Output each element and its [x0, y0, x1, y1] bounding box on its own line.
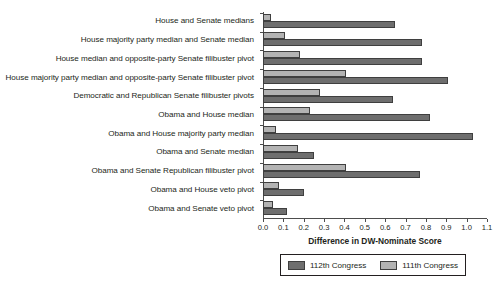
x-axis-tick [365, 219, 366, 222]
x-axis-title: Difference in DW-Nominate Score [263, 236, 487, 246]
legend-label-112th: 112th Congress [310, 261, 367, 270]
x-axis-tick-label: 1.1 [474, 223, 493, 233]
category-label: Obama and House veto pivot [150, 184, 254, 196]
category-label: House median and opposite-party Senate f… [56, 53, 254, 65]
x-axis-tick [344, 219, 345, 222]
chart-legend: 112th Congress 111th Congress [280, 254, 466, 276]
category-label: Obama and Senate Republican filibuster p… [92, 165, 254, 177]
legend-entry-112th[interactable]: 112th Congress [288, 261, 367, 270]
category-label: Obama and Senate median [156, 146, 254, 158]
x-axis-tick [487, 219, 488, 222]
bar-112th-congress [263, 133, 473, 140]
x-axis-tick [324, 219, 325, 222]
x-axis-tick [385, 219, 386, 222]
plot-area: 0.00.10.20.30.40.50.60.70.80.91.01.1 [263, 12, 487, 219]
legend-label-111th: 111th Congress [402, 261, 458, 270]
bar-111th-congress [263, 182, 279, 189]
legend-entry-111th[interactable]: 111th Congress [380, 261, 458, 270]
bar-112th-congress [263, 96, 393, 103]
x-axis-tick [446, 219, 447, 222]
bar-111th-congress [263, 107, 310, 114]
bar-chart-figure: House and Senate mediansHouse majority p… [0, 0, 493, 283]
bar-112th-congress [263, 39, 422, 46]
x-axis-tick [283, 219, 284, 222]
bar-112th-congress [263, 208, 287, 215]
category-label: House majority party median and opposite… [6, 72, 254, 84]
x-axis-tick [304, 219, 305, 222]
bar-111th-congress [263, 14, 271, 21]
bar-112th-congress [263, 114, 430, 121]
bar-111th-congress [263, 164, 346, 171]
bar-111th-congress [263, 51, 300, 58]
bar-112th-congress [263, 152, 314, 159]
bar-112th-congress [263, 171, 420, 178]
x-axis-tick [467, 219, 468, 222]
category-label: Obama and House majority party median [108, 128, 254, 140]
category-axis-labels: House and Senate mediansHouse majority p… [0, 12, 258, 218]
category-label: Democratic and Republican Senate filibus… [73, 90, 254, 102]
legend-swatch-111th [380, 261, 397, 270]
x-axis-line [263, 218, 487, 219]
bar-111th-congress [263, 126, 276, 133]
category-label: House and Senate medians [155, 15, 254, 27]
bar-112th-congress [263, 77, 448, 84]
bar-112th-congress [263, 189, 304, 196]
bar-112th-congress [263, 21, 395, 28]
x-axis-tick [426, 219, 427, 222]
bar-111th-congress [263, 201, 273, 208]
bar-111th-congress [263, 89, 320, 96]
x-axis-tick [406, 219, 407, 222]
bar-112th-congress [263, 58, 422, 65]
category-label: Obama and House median [158, 109, 254, 121]
bar-111th-congress [263, 32, 285, 39]
category-label: Obama and Senate veto pivot [148, 203, 254, 215]
bar-111th-congress [263, 70, 346, 77]
bar-111th-congress [263, 145, 298, 152]
legend-swatch-112th [288, 261, 305, 270]
x-axis-tick [263, 219, 264, 222]
category-label: House majority party median and Senate m… [81, 34, 254, 46]
